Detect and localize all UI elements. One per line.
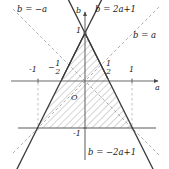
- axis-label-b: b: [76, 7, 81, 15]
- minus-sign: −: [48, 64, 55, 72]
- origin-label: O: [71, 94, 78, 102]
- tick-label-b-minus-1: -1: [73, 130, 81, 138]
- tick-label-a-minus-1: -1: [29, 66, 37, 74]
- coordinate-plane-svg: [0, 0, 169, 169]
- fraction-denominator: 2: [106, 68, 111, 76]
- tick-label-a-minus-one-half: − 1 2: [48, 60, 60, 76]
- label-line-b-equals-2a-plus-1: b = 2a+1: [95, 5, 136, 14]
- tick-label-a-1: 1: [129, 66, 134, 74]
- tick-label-a-one-half: 1 2: [106, 60, 111, 76]
- fraction-denominator: 2: [55, 68, 60, 76]
- math-diagram-figure: b = −a b = 2a+1 b = a b = −2a+1 1 -1 -1 …: [0, 0, 169, 169]
- label-line-b-equals-minus-a: b = −a: [17, 5, 47, 14]
- label-line-b-equals-minus-2a-plus-1: b = −2a+1: [88, 148, 136, 157]
- tick-label-b-1: 1: [76, 27, 81, 35]
- label-line-b-equals-a: b = a: [133, 31, 156, 40]
- axis-label-a: a: [155, 84, 160, 92]
